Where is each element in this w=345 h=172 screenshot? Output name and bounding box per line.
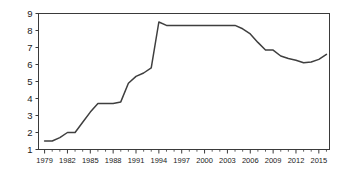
- y-tick-label: 1: [27, 144, 32, 155]
- x-tick-label: 1997: [173, 156, 190, 165]
- x-tick-label: 2003: [219, 156, 236, 165]
- x-tick-label: 1979: [36, 156, 53, 165]
- x-tick-label: 1985: [82, 156, 99, 165]
- y-tick-label: 4: [27, 93, 32, 104]
- y-tick-label: 3: [27, 110, 32, 121]
- x-tick-label: 2009: [265, 156, 282, 165]
- y-tick-label: 7: [27, 42, 32, 53]
- y-tick-label: 2: [27, 127, 32, 138]
- y-axis: 123456789: [27, 8, 38, 155]
- plot-frame: [39, 14, 330, 150]
- data-line-series-1: [45, 22, 327, 141]
- x-tick-label: 1994: [151, 156, 168, 165]
- x-tick-label: 1988: [105, 156, 122, 165]
- y-tick-label: 9: [27, 8, 32, 19]
- chart-canvas: 123456789 197919821985198819911994199720…: [0, 0, 345, 172]
- x-tick-label: 1982: [59, 156, 76, 165]
- x-tick-label: 1991: [128, 156, 145, 165]
- x-tick-label: 2006: [242, 156, 259, 165]
- x-tick-label: 2015: [310, 156, 327, 165]
- y-tick-label: 5: [27, 76, 32, 87]
- y-tick-label: 8: [27, 25, 32, 36]
- x-tick-label: 2012: [288, 156, 305, 165]
- y-tick-label: 6: [27, 59, 32, 70]
- x-axis: 1979198219851988199119941997200020032006…: [36, 150, 327, 165]
- x-tick-label: 2000: [196, 156, 213, 165]
- line-chart: 123456789 197919821985198819911994199720…: [0, 0, 345, 172]
